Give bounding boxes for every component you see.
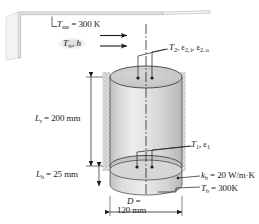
- label-base-conductivity: kb = 20 W/m·K: [201, 171, 255, 180]
- flow-arrows: [100, 36, 127, 47]
- dot-top-2: [150, 76, 153, 79]
- heat-transfer-figure: Tsur = 300 K T∞, h T2, ε2, i, ε2, o T1, …: [0, 0, 259, 224]
- label-base-temperature: Tb = 300K: [201, 184, 238, 193]
- label-inner-surface-properties: T1, ε1: [191, 140, 210, 149]
- dot-inner-1: [135, 165, 138, 168]
- label-surroundings-temperature: Tsur = 300 K: [57, 20, 100, 29]
- ceiling-extension: [163, 11, 210, 15]
- dot-inner-2: [150, 165, 153, 168]
- dot-kb: [177, 177, 180, 180]
- label-ambient-conditions: T∞, h: [58, 38, 86, 49]
- insulation-left: [103, 72, 111, 171]
- dot-top-1: [136, 76, 139, 79]
- wall-side-face: [6, 12, 18, 60]
- label-diameter-value: 120 mm: [117, 206, 146, 215]
- label-top-surface-properties: T2, ε2, i, ε2, o: [169, 43, 209, 52]
- label-base-thickness: Lb = 25 mm: [36, 170, 78, 179]
- label-cylinder-height: Lr = 200 mm: [35, 114, 80, 123]
- dimension-height: [86, 77, 103, 166]
